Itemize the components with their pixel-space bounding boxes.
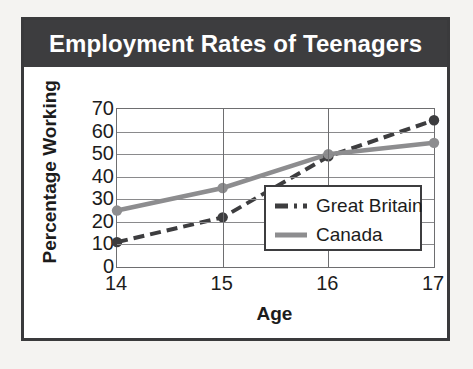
chart-legend: Great BritainCanada <box>264 185 422 251</box>
data-point <box>112 205 122 215</box>
legend-item[interactable]: Canada <box>266 220 420 249</box>
x-tick-label: 14 <box>105 272 127 295</box>
y-tick-label: 40 <box>92 166 114 186</box>
solid-line-icon <box>274 228 308 242</box>
plot-region: Percentage Working 010203040506070 14151… <box>24 67 447 338</box>
chart-title-banner: Employment Rates of Teenagers <box>24 20 447 67</box>
y-tick-label: 50 <box>92 143 114 163</box>
y-tick-label: 30 <box>92 188 114 208</box>
page-title: Employment Rates of Teenagers <box>49 30 422 58</box>
data-point <box>112 237 122 247</box>
gridline-vertical <box>223 109 224 267</box>
gridline-horizontal <box>117 132 434 133</box>
y-axis-tick-labels: 010203040506070 <box>72 108 114 266</box>
data-point <box>429 138 439 148</box>
x-tick-label: 17 <box>422 272 444 295</box>
dashed-line-icon <box>274 199 308 213</box>
y-tick-label: 70 <box>92 98 114 118</box>
legend-item[interactable]: Great Britain <box>266 191 420 220</box>
y-tick-label: 60 <box>92 121 114 141</box>
gridline-horizontal <box>117 154 434 155</box>
data-point <box>429 115 439 125</box>
x-axis-title: Age <box>116 303 433 325</box>
x-axis-tick-labels: 14151617 <box>116 272 433 298</box>
x-tick-label: 15 <box>211 272 233 295</box>
x-tick-label: 16 <box>316 272 338 295</box>
legend-label: Great Britain <box>316 195 423 217</box>
y-tick-label: 20 <box>92 211 114 231</box>
chart-figure-frame: Employment Rates of Teenagers Percentage… <box>21 17 450 341</box>
y-axis-title: Percentage Working <box>39 89 61 264</box>
gridline-horizontal <box>117 177 434 178</box>
legend-label: Canada <box>316 224 383 246</box>
y-tick-label: 10 <box>92 233 114 253</box>
